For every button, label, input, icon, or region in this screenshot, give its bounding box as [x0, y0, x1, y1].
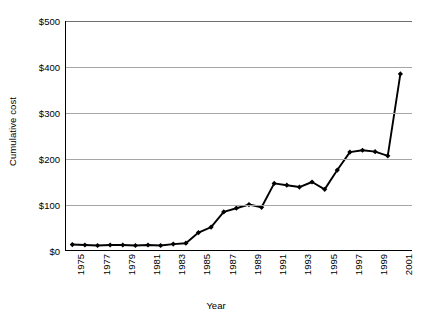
y-tick-label: $200	[39, 154, 60, 165]
y-axis-title-text: Cumulative cost	[8, 96, 19, 165]
gridline	[66, 113, 412, 114]
cumulative-cost-line-chart: Cumulative cost $0$100$200$300$400$500 1…	[0, 0, 432, 324]
x-tick-label: 2001	[403, 254, 414, 275]
x-axis-tick-labels: 1975197719791981198319851987198919911993…	[0, 252, 432, 298]
data-point-marker	[385, 153, 390, 158]
x-tick-label: 1989	[252, 254, 263, 275]
x-tick-label: 1999	[378, 254, 389, 275]
x-tick-label: 1981	[151, 254, 162, 275]
data-series-svg	[66, 21, 413, 251]
data-point-marker	[82, 242, 87, 247]
x-axis-title: Year	[0, 300, 432, 311]
data-point-marker	[171, 242, 176, 247]
x-tick-label: 1995	[328, 254, 339, 275]
data-point-marker	[284, 183, 289, 188]
data-point-marker	[297, 184, 302, 189]
y-axis-tick-labels: $0$100$200$300$400$500	[24, 0, 60, 262]
y-tick-label: $300	[39, 108, 60, 119]
data-point-marker	[120, 242, 125, 247]
x-tick-label: 1983	[176, 254, 187, 275]
y-tick-label: $400	[39, 62, 60, 73]
gridline	[66, 205, 412, 206]
x-tick-label: 1975	[75, 254, 86, 275]
data-point-marker	[398, 71, 403, 76]
gridline	[66, 21, 412, 22]
data-point-marker	[133, 243, 138, 248]
data-point-marker	[360, 148, 365, 153]
y-axis-title: Cumulative cost	[2, 0, 24, 262]
data-point-marker	[158, 243, 163, 248]
gridline	[66, 67, 412, 68]
x-tick-label: 1979	[126, 254, 137, 275]
data-point-marker	[108, 242, 113, 247]
x-tick-label: 1985	[201, 254, 212, 275]
x-tick-label: 1987	[227, 254, 238, 275]
x-tick-label: 1997	[353, 254, 364, 275]
data-point-marker	[234, 206, 239, 211]
x-tick-label: 1993	[302, 254, 313, 275]
x-tick-label: 1991	[277, 254, 288, 275]
data-point-marker	[145, 242, 150, 247]
data-point-marker	[95, 243, 100, 248]
x-tick-label: 1977	[101, 254, 112, 275]
y-tick-label: $500	[39, 16, 60, 27]
plot-area	[65, 21, 412, 251]
y-tick-label: $100	[39, 200, 60, 211]
data-point-marker	[70, 242, 75, 247]
data-point-marker	[373, 149, 378, 154]
gridline	[66, 159, 412, 160]
